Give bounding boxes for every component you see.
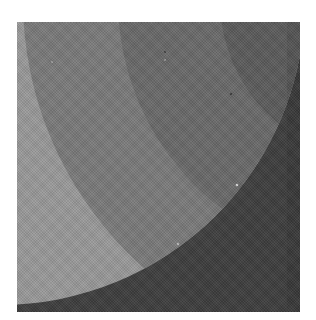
artwork-frame — [17, 22, 300, 312]
speck — [164, 51, 166, 53]
speck — [51, 61, 53, 63]
speck — [230, 93, 232, 95]
concentric-arcs-artwork — [17, 22, 300, 312]
speck — [177, 243, 179, 245]
speck — [164, 59, 166, 61]
speck — [236, 184, 239, 187]
right-edge-shade — [287, 22, 300, 312]
